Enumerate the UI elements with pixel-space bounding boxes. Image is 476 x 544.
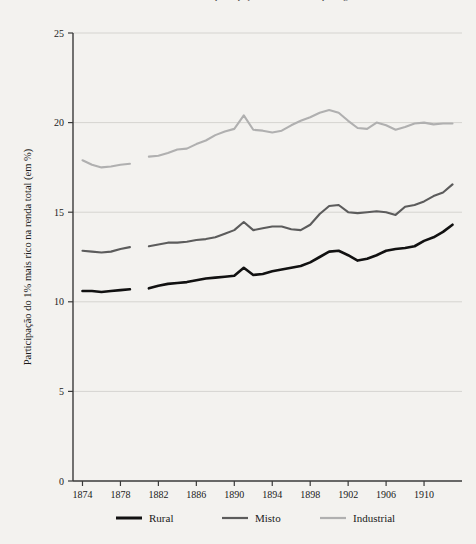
- x-axis-tick-label: 1886: [186, 489, 206, 500]
- x-axis-tick-label: 1878: [110, 489, 130, 500]
- y-axis-tick-label: 25: [54, 28, 64, 39]
- y-axis-tick-label: 20: [54, 117, 64, 128]
- legend-label-misto: Misto: [255, 512, 281, 524]
- y-axis-tick-label: 0: [59, 476, 64, 487]
- x-axis-tick-label: 1910: [414, 489, 434, 500]
- legend-label-rural: Rural: [149, 512, 173, 524]
- series-line-industrial: [82, 160, 129, 167]
- y-axis-label: Participação do 1% mais rico na renda to…: [22, 148, 34, 365]
- x-axis-tick-label: 1894: [262, 489, 282, 500]
- x-axis-tick-label: 1906: [376, 489, 396, 500]
- x-axis-tick-label: 1890: [224, 489, 244, 500]
- x-axis-tick-label: 1898: [300, 489, 320, 500]
- y-axis-tick-label: 10: [54, 296, 64, 307]
- y-axis-tick-label: 5: [59, 386, 64, 397]
- y-axis-tick-label: 15: [54, 207, 64, 218]
- series-line-misto: [149, 184, 453, 246]
- series-line-misto: [82, 247, 129, 252]
- chart-container: Renda e desenvolvimento: participação do…: [0, 0, 476, 544]
- series-line-rural: [82, 289, 129, 292]
- series-line-industrial: [149, 110, 453, 157]
- series-line-rural: [149, 225, 453, 289]
- legend-label-industrial: Industrial: [353, 512, 395, 524]
- x-axis-tick-label: 1902: [338, 489, 358, 500]
- line-chart: 0510152025187418781882188618901894189819…: [0, 0, 476, 544]
- x-axis-tick-label: 1882: [148, 489, 168, 500]
- x-axis-tick-label: 1874: [72, 489, 92, 500]
